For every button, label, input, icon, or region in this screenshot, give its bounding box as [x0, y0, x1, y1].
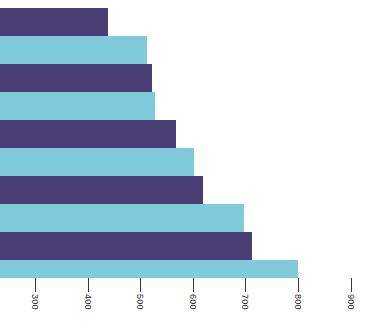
axis-tick-900: [351, 278, 352, 292]
axis-tick-label-500: 500: [135, 294, 145, 310]
axis-tick-label-600: 600: [188, 294, 198, 310]
bar-6[interactable]: 602: [0, 148, 194, 176]
bar-7[interactable]: 619: [0, 176, 203, 204]
bar-10[interactable]: 800: [0, 260, 298, 278]
axis-tick-300: [35, 278, 36, 292]
bar-1[interactable]: 439: [0, 8, 108, 36]
axis-tick-400: [88, 278, 89, 292]
bar-3[interactable]: 522: [0, 64, 152, 92]
x-axis: 300400500600700800900: [0, 278, 370, 328]
axis-tick-600: [193, 278, 194, 292]
axis-tick-500: [140, 278, 141, 292]
bar-9[interactable]: 713: [0, 232, 252, 260]
plot-area: 439513522528568602619697713800: [0, 0, 370, 278]
axis-tick-label-900: 900: [346, 294, 356, 310]
bar-chart: 439513522528568602619697713800 300400500…: [0, 0, 370, 328]
axis-tick-700: [245, 278, 246, 292]
bar-2[interactable]: 513: [0, 36, 147, 64]
axis-tick-label-400: 400: [83, 294, 93, 310]
axis-tick-label-300: 300: [30, 294, 40, 310]
bar-8[interactable]: 697: [0, 204, 244, 232]
axis-tick-800: [298, 278, 299, 292]
axis-tick-label-700: 700: [240, 294, 250, 310]
bar-5[interactable]: 568: [0, 120, 176, 148]
bar-4[interactable]: 528: [0, 92, 155, 120]
axis-tick-label-800: 800: [293, 294, 303, 310]
